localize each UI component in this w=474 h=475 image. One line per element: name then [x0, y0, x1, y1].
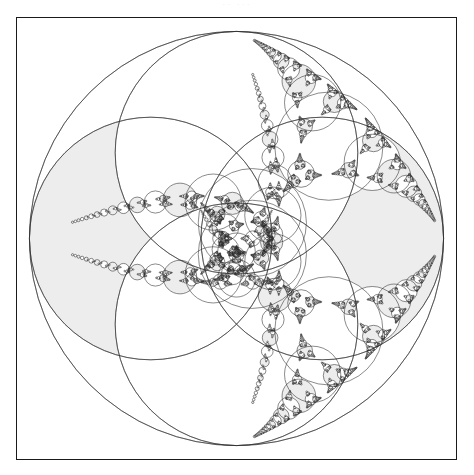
- circle-fills: [29, 31, 443, 445]
- apollonian-gasket-plot: [17, 18, 456, 459]
- cropped-title-artifact: ·· ···: [0, 0, 474, 9]
- figure-frame: [16, 17, 457, 460]
- figure-page: ·· ···: [0, 0, 474, 475]
